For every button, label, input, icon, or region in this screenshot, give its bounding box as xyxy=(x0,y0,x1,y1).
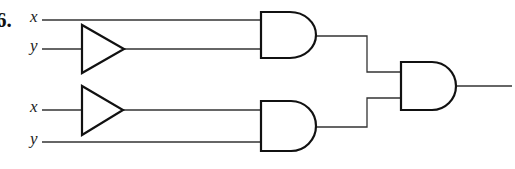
circuit-svg xyxy=(0,0,515,169)
buffer-gate-top xyxy=(82,25,124,73)
and-gate-output xyxy=(401,62,456,110)
and-gate-top xyxy=(261,12,316,58)
wire-and1-to-and3 xyxy=(316,36,401,72)
logic-circuit-diagram: 6. x y x y xyxy=(0,0,515,169)
buffer-gate-bottom xyxy=(82,86,123,135)
and-gate-bottom xyxy=(261,101,316,151)
wire-and2-to-and3 xyxy=(316,98,401,127)
